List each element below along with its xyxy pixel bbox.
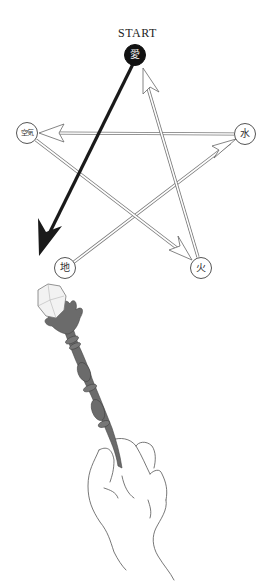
hand-icon bbox=[88, 438, 174, 580]
edge-water-to-air bbox=[39, 124, 234, 142]
wand-illustration bbox=[38, 284, 174, 580]
star-edges bbox=[0, 0, 275, 584]
edge-earth-to-water bbox=[74, 139, 236, 262]
node-water: 水 bbox=[234, 123, 256, 145]
node-fire: 火 bbox=[190, 257, 212, 279]
arrowhead-icon bbox=[143, 68, 159, 94]
node-earth: 地 bbox=[54, 257, 76, 279]
node-air: 空気 bbox=[16, 122, 38, 144]
node-love: 愛 bbox=[124, 44, 146, 66]
bold-arrowhead-icon bbox=[38, 218, 62, 256]
pentagram-diagram: START bbox=[0, 0, 275, 584]
arrowhead-icon bbox=[169, 236, 192, 260]
arrowhead-icon bbox=[212, 139, 236, 158]
